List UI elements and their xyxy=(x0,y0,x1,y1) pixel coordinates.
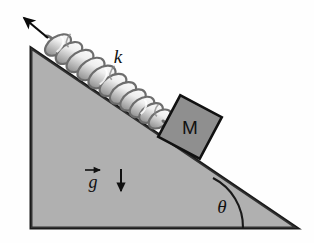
mass-block-label: M xyxy=(182,117,198,138)
physics-diagram-figure: M k g θ xyxy=(0,0,314,243)
gravity-label: g xyxy=(89,172,98,192)
pull-direction-arrow xyxy=(24,18,48,38)
spring-constant-label: k xyxy=(114,46,123,67)
angle-label: θ xyxy=(217,196,226,217)
diagram-canvas: M k g θ xyxy=(0,0,314,243)
